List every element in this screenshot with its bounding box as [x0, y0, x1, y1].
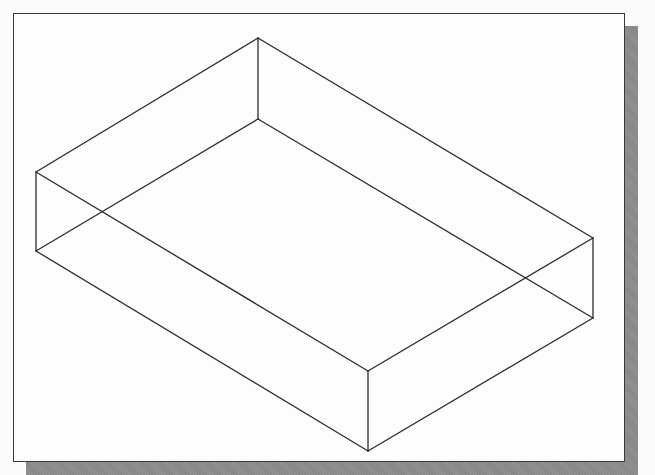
isometric-box-wireframe — [0, 0, 655, 475]
edge-bottom-right-to-bottom-front — [368, 318, 593, 451]
edge-bottom-back-to-bottom-left — [36, 119, 258, 251]
diagram-canvas — [0, 0, 655, 475]
box-edges — [36, 38, 593, 451]
edge-top-back-to-top-left — [36, 38, 258, 172]
edge-top-back-to-top-right — [258, 38, 593, 238]
edge-top-right-to-top-front — [368, 238, 593, 371]
edge-top-left-to-top-front — [36, 172, 368, 371]
edge-bottom-left-to-bottom-front — [36, 251, 368, 451]
edge-bottom-back-to-bottom-right — [258, 119, 593, 318]
